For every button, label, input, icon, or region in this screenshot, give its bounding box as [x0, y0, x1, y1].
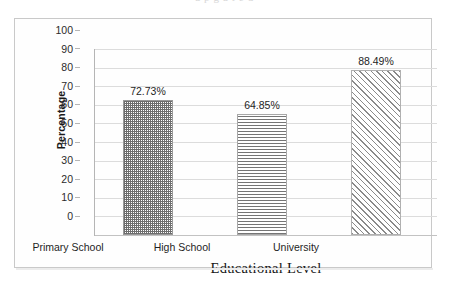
- y-axis-tick-labels: 100 90 80 70 60 50 40 30 20 10 0: [28, 0, 73, 291]
- y-tick-label-50: 50: [33, 118, 73, 128]
- bar-primary-school[interactable]: [123, 100, 173, 235]
- gridline-90: [95, 68, 437, 69]
- y-tick-label-40: 40: [33, 137, 73, 147]
- y-tick-label-30: 30: [33, 155, 73, 165]
- y-tick-label-0: 0: [33, 211, 73, 221]
- x-axis-title: Educational Level: [95, 260, 437, 277]
- y-tick-label-90: 90: [33, 44, 73, 54]
- gridline-100: [95, 49, 437, 50]
- y-tick-label-80: 80: [33, 62, 73, 72]
- y-tick-label-10: 10: [33, 192, 73, 202]
- data-label-university: 88.49%: [331, 56, 421, 67]
- x-tick-label-high-school: High School: [122, 241, 242, 253]
- bar-fill-crosshatch: [123, 100, 173, 235]
- plot-area: 72.73% 64.85% 88.49%: [95, 49, 437, 235]
- y-tick-label-70: 70: [33, 81, 73, 91]
- x-tick-label-university: University: [236, 241, 356, 253]
- data-label-primary-school: 72.73%: [103, 86, 193, 97]
- figure-frame: Percentage 72.73% 64.85% 88.49% Primary …: [14, 18, 432, 268]
- bar-university[interactable]: [351, 70, 401, 235]
- bar-fill-horizontal-lines: [237, 114, 287, 235]
- bar-high-school[interactable]: [237, 114, 287, 235]
- bar-fill-diagonal-lines: [351, 70, 401, 235]
- y-tick-label-100: 100: [33, 25, 73, 35]
- gridline-0: [95, 235, 437, 236]
- y-tick-label-20: 20: [33, 174, 73, 184]
- y-tick-label-60: 60: [33, 99, 73, 109]
- data-label-high-school: 64.85%: [217, 100, 307, 111]
